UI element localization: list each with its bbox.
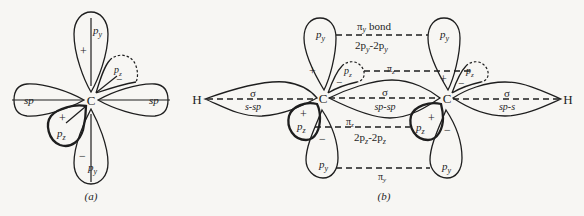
right-pz-upper-label: pz [465,65,474,79]
left-py-bottom-sign: − [319,132,326,146]
sign-pz-lower: + [59,111,66,125]
caption-b: (b) [378,190,391,203]
sigma-right-desc: sp-s [499,101,515,112]
right-py-bottom-sign: − [444,123,451,137]
right-py-top-sign: + [440,72,447,86]
left-py-top-sign: + [309,64,316,78]
pi-z-top-label: πz [387,63,395,76]
panel-b: H C C H py + pz − + pz − py py + pz − + … [192,18,572,203]
sigma-mid-label: σ [382,86,388,98]
right-py-bottom-label: py [441,160,452,175]
pi-y-bond-top-label: πy bond [357,20,391,34]
sign-pz-upper: − [116,73,122,85]
right-pz-lower-label: pz [415,121,426,136]
panel-a: C py + pz − sp sp + pz − py (a) [12,12,170,203]
sigma-right-label: σ [504,87,510,99]
atom-h-right: H [563,92,572,107]
atom-c-a: C [87,93,96,108]
left-pz-upper-sign: − [336,76,342,88]
caption-a: (a) [85,190,98,203]
left-pz-lower-label: pz [296,120,307,135]
sign-py-bottom: − [79,149,86,163]
axis-z-lower [66,107,85,123]
pi-y-bond-top-desc: 2py-2py [355,39,388,54]
left-pz-upper-label: pz [343,65,352,79]
sigma-mid-desc: sp-sp [374,101,395,112]
pi-y-bottom-label: πy [378,171,387,184]
pi-z-bottom-desc: 2pz-2pz [354,131,387,146]
left-py-top-label: py [315,28,326,43]
left-pz-lower-sign: + [300,107,307,121]
sigma-left-desc: s-sp [245,101,261,112]
right-pz-lower-sign: + [428,111,435,125]
orbital-diagram: C py + pz − sp sp + pz − py (a) [0,0,584,216]
label-py-top: py [92,24,103,39]
label-sp-left: sp [24,94,34,106]
left-c-pz-upper-solid [328,66,357,93]
label-py-bottom: py [87,161,98,176]
atom-c-left: C [319,91,328,106]
label-pz-lower: pz [56,127,67,142]
right-pz-upper-sign: − [458,77,464,89]
atom-h-left: H [192,92,201,107]
right-py-top-label: py [439,28,450,43]
label-sp-right: sp [149,94,159,106]
sign-py-top: + [80,44,87,58]
atom-c-right: C [443,91,452,106]
left-py-bottom-label: py [318,158,329,173]
sigma-left-label: σ [250,87,256,99]
